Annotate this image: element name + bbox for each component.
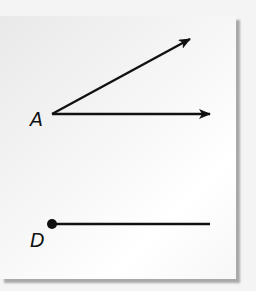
ray-a-upper [52,39,190,114]
label-point-a: A [30,110,43,129]
label-point-d: D [30,231,45,250]
ray-d [47,219,210,229]
point-d-dot [47,219,57,229]
